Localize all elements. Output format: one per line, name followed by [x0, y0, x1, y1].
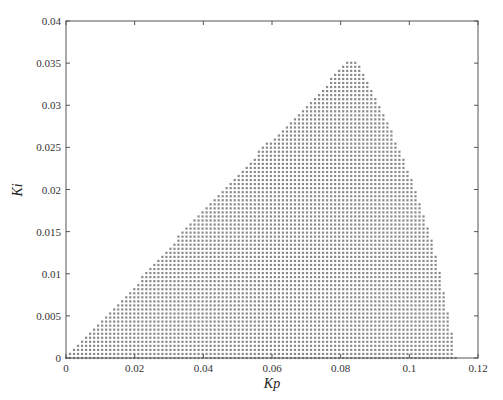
x-axis-label: Kp: [263, 376, 280, 391]
y-tick-label: 0.03: [42, 99, 62, 111]
x-tick-label: 0: [63, 362, 69, 374]
y-tick-label: 0.04: [42, 15, 62, 27]
y-tick-label: 0: [56, 352, 62, 364]
stability-region-dots: [65, 62, 457, 359]
y-axis-label: Ki: [10, 183, 25, 197]
x-tick-label: 0.02: [125, 362, 144, 374]
y-axis-ticks: 00.0050.010.0150.020.0250.030.0350.04: [36, 15, 478, 364]
x-tick-label: 0.1: [402, 362, 416, 374]
y-tick-label: 0.025: [36, 141, 61, 153]
scatter-chart: 00.020.040.060.080.10.12 00.0050.010.015…: [0, 0, 503, 400]
y-tick-label: 0.005: [36, 310, 61, 322]
x-tick-label: 0.08: [331, 362, 351, 374]
y-tick-label: 0.02: [42, 184, 61, 196]
x-tick-label: 0.06: [262, 362, 282, 374]
y-tick-label: 0.015: [36, 226, 61, 238]
plot-frame: [66, 21, 478, 358]
y-tick-label: 0.01: [42, 268, 61, 280]
y-tick-label: 0.035: [36, 57, 61, 69]
x-tick-label: 0.12: [468, 362, 487, 374]
x-tick-label: 0.04: [194, 362, 214, 374]
